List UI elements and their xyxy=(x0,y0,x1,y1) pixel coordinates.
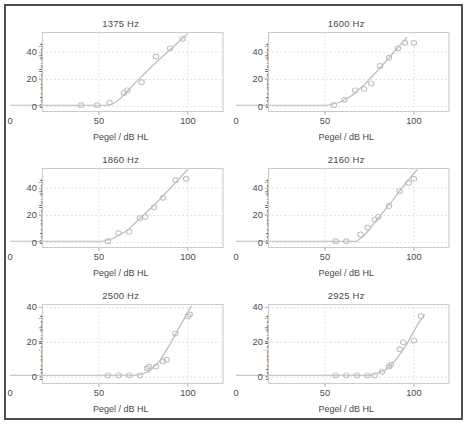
panel-title: 2160 Hz xyxy=(234,154,460,165)
plot-frame xyxy=(43,32,223,111)
y-tick-label: 40 xyxy=(27,303,37,312)
x-axis-label: Pegel / dB HL xyxy=(8,268,234,278)
x-tick-label: 0 xyxy=(7,253,12,262)
plot-area: 05010002040 xyxy=(42,304,224,384)
x-tick-label: 100 xyxy=(180,117,196,126)
plot-area: 05010002040 xyxy=(268,304,450,384)
panel-title: 2925 Hz xyxy=(234,290,460,301)
x-tick-label: 0 xyxy=(233,253,238,262)
y-tick-label: 0 xyxy=(32,372,37,381)
x-axis-label: Pegel / dB HL xyxy=(8,132,234,142)
y-tick-label: 20 xyxy=(252,338,262,347)
x-tick-label: 50 xyxy=(94,253,104,262)
chart-panel: 1375 HzKategoriallautheitPegel / dB HL05… xyxy=(8,8,234,144)
plot-svg: 05010002040 xyxy=(268,304,450,384)
x-tick-label: 0 xyxy=(233,389,238,398)
x-tick-label: 100 xyxy=(406,389,422,398)
x-tick-label: 50 xyxy=(319,253,329,262)
y-tick-label: 20 xyxy=(27,338,37,347)
x-tick-label: 0 xyxy=(7,389,12,398)
y-tick-label: 20 xyxy=(252,211,262,220)
x-tick-label: 0 xyxy=(7,117,12,126)
plot-frame xyxy=(268,32,448,111)
figure-container: 1375 HzKategoriallautheitPegel / dB HL05… xyxy=(0,0,467,424)
x-axis-label: Pegel / dB HL xyxy=(8,404,234,414)
plot-frame xyxy=(43,304,223,383)
plot-svg: 05010002040 xyxy=(42,32,224,112)
y-tick-label: 40 xyxy=(252,184,262,193)
chart-panel: 2925 HzKategoriallautheitPegel / dB HL05… xyxy=(234,280,460,416)
panel-grid: 1375 HzKategoriallautheitPegel / dB HL05… xyxy=(8,8,459,416)
plot-area: 05010002040 xyxy=(268,32,450,112)
x-tick-label: 100 xyxy=(406,117,422,126)
plot-svg: 05010002040 xyxy=(42,168,224,248)
chart-panel: 2500 HzKategoriallautheitPegel / dB HL05… xyxy=(8,280,234,416)
x-axis-label: Pegel / dB HL xyxy=(234,404,460,414)
plot-svg: 05010002040 xyxy=(268,168,450,248)
x-axis-label: Pegel / dB HL xyxy=(234,268,460,278)
plot-frame xyxy=(43,168,223,247)
panel-title: 1600 Hz xyxy=(234,18,460,29)
y-tick-label: 0 xyxy=(257,372,262,381)
chart-panel: 1600 HzKategoriallautheitPegel / dB HL05… xyxy=(234,8,460,144)
y-tick-label: 20 xyxy=(27,211,37,220)
panel-title: 2500 Hz xyxy=(8,290,234,301)
plot-area: 05010002040 xyxy=(268,168,450,248)
y-tick-label: 40 xyxy=(252,48,262,57)
plot-svg: 05010002040 xyxy=(42,304,224,384)
x-tick-label: 50 xyxy=(94,117,104,126)
x-tick-label: 100 xyxy=(406,253,422,262)
y-tick-label: 40 xyxy=(27,184,37,193)
chart-panel: 2160 HzKategoriallautheitPegel / dB HL05… xyxy=(234,144,460,280)
x-tick-label: 50 xyxy=(94,389,104,398)
x-tick-label: 50 xyxy=(319,117,329,126)
x-axis-label: Pegel / dB HL xyxy=(234,132,460,142)
x-tick-label: 0 xyxy=(233,117,238,126)
y-tick-label: 20 xyxy=(252,75,262,84)
y-tick-label: 0 xyxy=(257,102,262,111)
y-tick-label: 0 xyxy=(257,238,262,247)
plot-area: 05010002040 xyxy=(42,32,224,112)
x-tick-label: 50 xyxy=(319,389,329,398)
x-tick-label: 100 xyxy=(180,253,196,262)
y-tick-label: 20 xyxy=(27,75,37,84)
plot-frame xyxy=(268,304,448,383)
panel-title: 1375 Hz xyxy=(8,18,234,29)
chart-panel: 1860 HzKategoriallautheitPegel / dB HL05… xyxy=(8,144,234,280)
y-tick-label: 0 xyxy=(32,238,37,247)
y-tick-label: 40 xyxy=(252,303,262,312)
plot-area: 05010002040 xyxy=(42,168,224,248)
y-tick-label: 0 xyxy=(32,102,37,111)
y-tick-label: 40 xyxy=(27,48,37,57)
plot-svg: 05010002040 xyxy=(268,32,450,112)
panel-title: 1860 Hz xyxy=(8,154,234,165)
x-tick-label: 100 xyxy=(180,389,196,398)
